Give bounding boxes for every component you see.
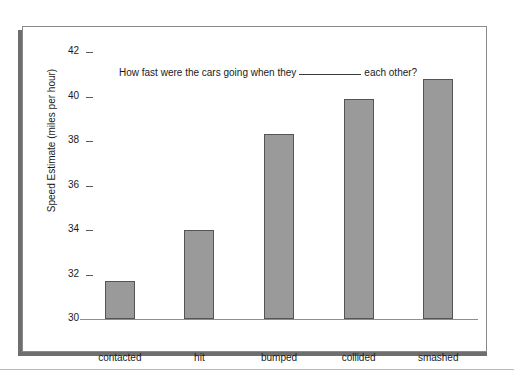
x-axis-label-bumped: bumped <box>234 352 324 363</box>
x-axis-label-contacted: contacted <box>75 352 165 363</box>
bar-bumped <box>264 134 294 319</box>
plot-area: contactedhitbumpedcollidedsmashed <box>80 52 478 319</box>
x-axis-line <box>80 319 478 320</box>
y-axis-tick-label: 32 <box>39 268 79 279</box>
chart-figure: How fast were the cars going when theyea… <box>22 26 487 352</box>
x-axis-label-hit: hit <box>154 352 244 363</box>
bar-hit <box>184 230 214 319</box>
y-axis-tick-label: 34 <box>39 223 79 234</box>
x-axis-label-smashed: smashed <box>393 352 483 363</box>
y-axis-tick-label: 42 <box>39 45 79 56</box>
bar-collided <box>344 99 374 319</box>
y-axis-tick-label: 30 <box>39 312 79 323</box>
bar-smashed <box>423 79 453 319</box>
y-axis-tick-label: 36 <box>39 179 79 190</box>
page-divider <box>0 369 514 370</box>
x-axis-label-collided: collided <box>314 352 404 363</box>
y-axis-tick-label: 40 <box>39 90 79 101</box>
bar-contacted <box>105 281 135 319</box>
y-axis-tick-label: 38 <box>39 134 79 145</box>
